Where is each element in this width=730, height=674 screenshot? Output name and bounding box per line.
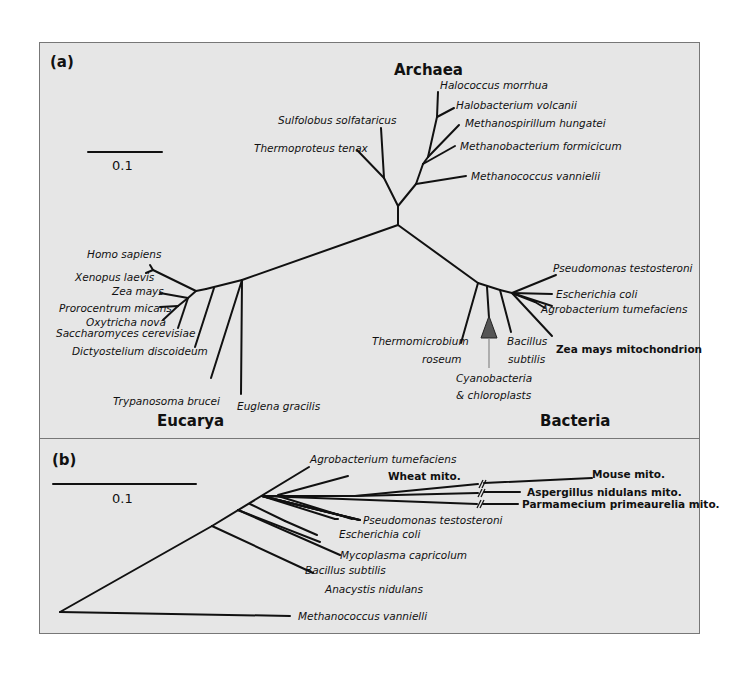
taxon-label: roseum [422, 353, 462, 365]
taxon-label: Methanospirillum hungatei [465, 117, 606, 129]
taxon-label: & chloroplasts [456, 389, 532, 401]
taxon-label: Cyanobacteria [456, 372, 532, 384]
taxon-label: Prorocentrum micans [59, 302, 172, 314]
phylogenetic-figure: (a) 0.1 Archaea Eucarya Bacteria [0, 0, 730, 674]
tree-diagram: (a) 0.1 Archaea Eucarya Bacteria [0, 0, 730, 674]
taxon-label: Thermoproteus tenax [254, 142, 369, 154]
taxon-label: Bacillus subtilis [305, 564, 386, 576]
taxon-label: Homo sapiens [87, 248, 162, 260]
taxon-label: Aspergillus nidulans mito. [527, 486, 682, 498]
taxon-label: Anacystis nidulans [324, 583, 423, 595]
taxon-label: Mycoplasma capricolum [340, 549, 467, 561]
taxon-label: Zea mays mitochondrion [556, 343, 702, 355]
taxon-label: Halobacterium volcanii [456, 99, 577, 111]
scale-bar-b-label: 0.1 [112, 491, 133, 506]
taxon-label: Euglena gracilis [237, 400, 321, 412]
taxon-label: Wheat mito. [388, 470, 461, 482]
taxon-label: Dictyostelium discoideum [72, 345, 208, 357]
taxon-label: Saccharomyces cerevisiae [56, 327, 195, 339]
taxon-label: Agrobacterium tumefaciens [309, 453, 457, 465]
cyanobacteria-clade-triangle [481, 316, 497, 338]
taxon-label: Escherichia coli [339, 528, 420, 540]
taxon-label: Methanococcus vannielli [298, 610, 427, 622]
domain-eucarya: Eucarya [157, 412, 224, 430]
taxon-label: Agrobacterium tumefaciens [540, 303, 688, 315]
taxon-label: Escherichia coli [556, 288, 637, 300]
taxon-label: Thermomicrobium [372, 335, 469, 347]
taxon-label: Parmamecium primeaurelia mito. [522, 498, 720, 510]
taxon-label: Pseudomonas testosteroni [363, 514, 503, 526]
taxon-label: Sulfolobus solfataricus [278, 114, 397, 126]
taxon-label: Pseudomonas testosteroni [553, 262, 693, 274]
panel-b-label: (b) [52, 451, 76, 469]
taxon-label: Halococcus morrhua [440, 79, 548, 91]
panel-a-label: (a) [50, 53, 74, 71]
taxon-label: Methanococcus vannielii [471, 170, 600, 182]
taxon-label: Zea mays [111, 285, 164, 297]
scale-bar-a-label: 0.1 [112, 158, 133, 173]
taxon-label: Bacillus [507, 335, 548, 347]
taxon-label: Xenopus laevis [74, 271, 155, 283]
taxon-label: Methanobacterium formicicum [460, 140, 622, 152]
taxon-label: subtilis [508, 353, 546, 365]
domain-archaea: Archaea [394, 61, 463, 79]
taxon-label: Trypanosoma brucei [113, 395, 220, 407]
taxon-label: Mouse mito. [592, 468, 665, 480]
domain-bacteria: Bacteria [540, 412, 610, 430]
